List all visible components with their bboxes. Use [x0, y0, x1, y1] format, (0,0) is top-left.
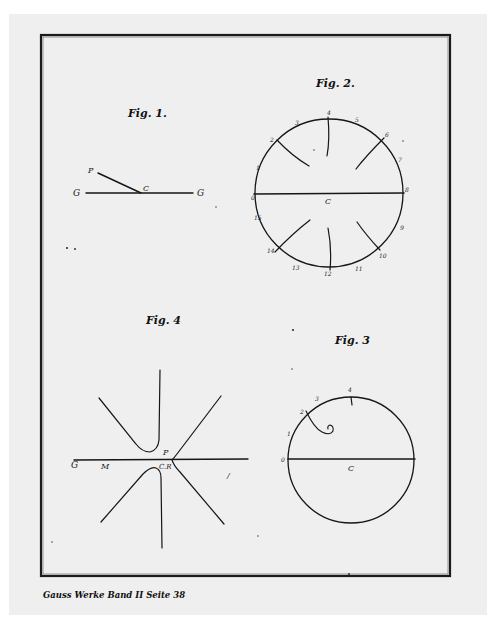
fig4-label-m: M: [100, 462, 110, 471]
fig4-branch-upper-left: [99, 370, 160, 452]
fig1-title: Fig. 1.: [127, 107, 167, 120]
plate-frame: [41, 35, 450, 576]
fig2-rim-label: 3: [295, 119, 299, 126]
fig2-arc-top-right: [356, 138, 384, 169]
figure-4: Fig. 4 G M P C.R /: [71, 314, 248, 548]
fig1-label-end: P: [87, 166, 94, 175]
fig2-rim-label: 14: [267, 247, 275, 254]
fig2-rim-label: 2: [269, 136, 274, 143]
fig2-rim-label: 12: [324, 270, 332, 277]
fig2-rim-label: 13: [292, 264, 300, 271]
fig4-label-center: C.R: [159, 463, 172, 471]
fig3-rim-label: 1: [287, 430, 291, 437]
figure-1: Fig. 1. G G P C: [73, 107, 204, 198]
fig2-rim-label: 6: [385, 131, 389, 138]
fig2-center-label: C: [325, 197, 331, 206]
fig2-arc-bottom: [328, 228, 331, 270]
fig3-rim-label: 0: [281, 456, 285, 463]
fig2-rim-label: 10: [379, 252, 387, 259]
figure-3: Fig. 3 4 3 2 1 0 C: [281, 334, 415, 523]
fig3-rim-label: 4: [347, 386, 352, 393]
fig1-ray: [98, 173, 141, 193]
fig2-rim-label: 0: [251, 194, 255, 201]
fig4-title: Fig. 4: [145, 314, 181, 327]
fig4-branch-lower: [101, 468, 162, 548]
fig2-rim-label: 7: [398, 156, 402, 163]
fig2-rim-label: 9: [400, 224, 404, 231]
fig2-rim-label: 4: [326, 109, 331, 116]
fig1-label-right: G: [197, 188, 204, 198]
fig3-spiral: [306, 411, 333, 434]
fig2-arc-top-left: [277, 140, 309, 166]
fig1-label-center: C: [143, 184, 149, 193]
plate-drawing: Fig. 1. G G P C Fig. 2. C 4 5 6 7 8 9 10…: [0, 0, 497, 629]
fig2-title: Fig. 2.: [315, 77, 355, 90]
figure-2: Fig. 2. C 4 5 6 7 8 9 10 11 12 13 14 15 …: [251, 77, 409, 277]
fig4-axis: [74, 459, 248, 460]
fig2-rim-label: 15: [254, 214, 262, 221]
fig2-diameter: [254, 193, 404, 194]
fig3-rim-label: 3: [315, 395, 319, 402]
fig2-rim-label: 8: [405, 186, 409, 193]
fig2-arc-top: [327, 117, 329, 156]
fig3-circle: [288, 397, 414, 523]
fig3-center-label: C: [348, 464, 354, 473]
plate-frame-inner: [43, 37, 448, 574]
fig4-label-p: P: [162, 448, 169, 457]
footer-caption: Gauss Werke Band II Seite 38: [43, 590, 185, 600]
fig3-tick: [351, 397, 352, 405]
fig2-rim-label: 1: [256, 164, 260, 171]
fig3-rim-label: 2: [299, 408, 304, 415]
fig2-arc-bottom-left: [275, 220, 310, 252]
fig4-right-mark: /: [226, 471, 231, 480]
ink-specks: [51, 140, 403, 575]
fig4-label-left: G: [71, 460, 78, 470]
fig2-arc-bottom-right: [357, 222, 380, 250]
fig1-label-left: G: [73, 188, 80, 198]
fig3-title: Fig. 3: [334, 334, 370, 347]
fig2-rim-label: 5: [355, 116, 359, 123]
fig2-rim-label: 11: [355, 265, 363, 272]
